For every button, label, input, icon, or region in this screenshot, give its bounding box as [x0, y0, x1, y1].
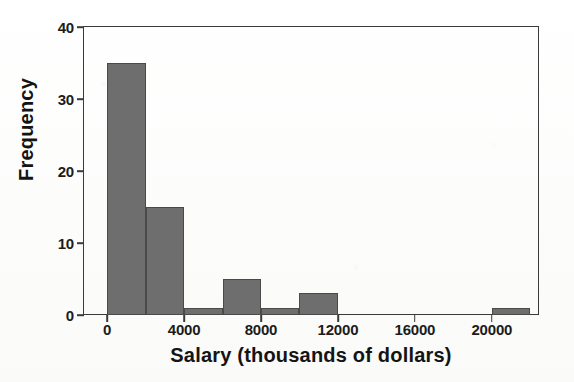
histogram-bar: [184, 308, 222, 315]
x-axis-tick-label: 8000: [245, 322, 278, 339]
x-axis-tick-label: 12000: [318, 322, 359, 339]
y-axis-tick-label: 30: [58, 92, 74, 107]
histogram-bar: [261, 308, 299, 315]
y-axis-tick-label: 20: [58, 164, 74, 179]
histogram-bar: [492, 308, 530, 315]
histogram-bar: [223, 279, 261, 315]
y-axis-tick-label: 0: [66, 308, 74, 323]
y-axis-tick-labels: 010203040: [42, 27, 74, 315]
histogram-figure: Frequency 010203040 04000800012000160002…: [0, 0, 574, 382]
x-axis-tick-label: 20000: [471, 322, 512, 339]
y-axis-tick-label: 40: [58, 20, 74, 35]
histogram-bar: [107, 63, 145, 315]
x-axis-tick-label: 0: [103, 322, 111, 339]
plot-area: [84, 27, 538, 315]
x-axis-tick-labels: 040008000120001600020000: [84, 322, 538, 344]
y-axis-title: Frequency: [15, 30, 38, 230]
histogram-bar: [146, 207, 184, 315]
x-axis-title: Salary (thousands of dollars): [83, 344, 539, 367]
x-axis-tick-label: 4000: [168, 322, 201, 339]
histogram-bar: [299, 293, 337, 315]
x-axis-tick-label: 16000: [395, 322, 436, 339]
y-axis-tick-label: 10: [58, 236, 74, 251]
